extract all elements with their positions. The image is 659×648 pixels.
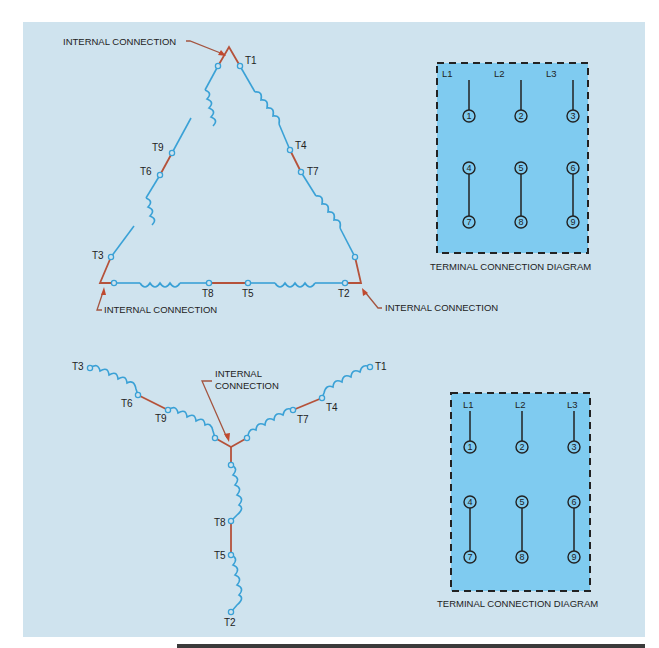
wye-node-t4: [319, 395, 324, 400]
delta-callout-bottom-right: INTERNAL CONNECTION: [385, 302, 498, 313]
wye-center-jumper: [215, 438, 247, 447]
arrowhead-icon: [101, 287, 106, 295]
top-line-l1: L1: [442, 68, 453, 79]
wye-node-t2: [228, 609, 233, 614]
delta-node-t4: [287, 147, 292, 152]
delta-label-t1: T1: [245, 55, 257, 66]
motor-connection-diagrams: T1 T9 T6 T3 T4 T7 T8 T5 T2 INTERNAL CONN…: [0, 0, 659, 648]
wye-node-t5: [228, 552, 233, 557]
bottom-line-l1: L1: [463, 399, 474, 410]
delta-callout-top-arrow: [186, 41, 223, 54]
wye-node-center-bottom: [228, 462, 233, 467]
delta-node-t3: [108, 254, 113, 259]
wye-node-left-inner: [212, 435, 217, 440]
bottom-terminal-1-num: 1: [467, 442, 472, 452]
delta-node-t9: [169, 150, 174, 155]
wye-callout-line1: INTERNAL: [215, 368, 262, 379]
wye-label-t8: T8: [214, 517, 226, 528]
delta-label-t4: T4: [295, 140, 307, 151]
bottom-terminal-7-num: 7: [467, 552, 472, 562]
delta-label-t9: T9: [152, 142, 164, 153]
wye-t4-t7-link: [293, 398, 322, 410]
arrowhead-icon: [224, 433, 230, 442]
delta-callout-bottom-left: INTERNAL CONNECTION: [104, 304, 217, 315]
wye-node-t7: [290, 407, 295, 412]
delta-node-t2: [342, 280, 347, 285]
wye-node-t3: [87, 365, 92, 370]
top-terminal-1-num: 1: [466, 111, 471, 121]
bottom-terminal-8-num: 8: [519, 552, 524, 562]
wye-node-t6: [135, 392, 140, 397]
wye-node-right-inner: [244, 435, 249, 440]
delta-coil-bottom-left: [114, 283, 209, 287]
bottom-terminal-9-num: 9: [571, 552, 576, 562]
bottom-terminal-5-num: 5: [519, 497, 524, 507]
delta-node-t8: [206, 280, 211, 285]
delta-node-t7: [298, 169, 303, 174]
delta-node-t1: [237, 63, 242, 68]
delta-node-t5: [245, 280, 250, 285]
terminal-diagram-top: L1 L2 L3 1 2 3 4 5 6 7 8 9 TERMINAL CONN…: [430, 63, 591, 272]
delta-coil-left-lower: [111, 175, 160, 257]
top-terminal-6-num: 6: [570, 163, 575, 173]
bottom-terminal-4-num: 4: [467, 497, 472, 507]
wye-coil-left-inner: [168, 408, 215, 438]
top-terminal-7-num: 7: [466, 217, 471, 227]
top-line-l2: L2: [494, 68, 505, 79]
wye-label-t1: T1: [375, 361, 387, 372]
delta-callout-bottom-right-arrow: [365, 292, 382, 308]
delta-label-t3: T3: [92, 250, 104, 261]
top-terminal-2-num: 2: [518, 111, 523, 121]
bottom-terminal-3-num: 3: [571, 442, 576, 452]
delta-t4-t7-link: [290, 150, 301, 172]
wye-callout-line2: CONNECTION: [215, 380, 279, 391]
bottom-terminal-2-num: 2: [519, 442, 524, 452]
top-terminal-caption: TERMINAL CONNECTION DIAGRAM: [430, 261, 591, 272]
wye-coil-left-outer: [90, 366, 138, 395]
delta-node-right-lower: [352, 254, 357, 259]
wye-coil-right-outer: [322, 366, 370, 398]
bottom-line-l3: L3: [567, 399, 578, 410]
wye-node-t8: [228, 518, 233, 523]
wye-label-t4: T4: [326, 402, 338, 413]
delta-coil-right-upper: [240, 66, 290, 150]
top-terminal-8-num: 8: [518, 217, 523, 227]
delta-coil-left-upper: [172, 66, 218, 153]
delta-diagram: T1 T9 T6 T3 T4 T7 T8 T5 T2 INTERNAL CONN…: [63, 36, 498, 315]
delta-label-t7: T7: [307, 166, 319, 177]
top-terminal-9-num: 9: [570, 217, 575, 227]
top-terminal-3-num: 3: [570, 111, 575, 121]
bottom-terminal-6-num: 6: [571, 497, 576, 507]
wye-diagram: T3 T6 T9 T1 T4 T7 T8 T5 T2 INTERNAL CONN…: [72, 361, 387, 628]
wye-label-t9: T9: [155, 413, 167, 424]
top-line-l3: L3: [546, 68, 557, 79]
delta-t9-t6-link: [160, 153, 172, 175]
delta-coil-bottom-right: [248, 283, 345, 287]
wye-t6-t9-link: [138, 395, 168, 410]
wye-coil-vertical-upper: [231, 465, 242, 521]
wye-coil-vertical-lower: [231, 555, 242, 612]
delta-node-t6: [157, 172, 162, 177]
delta-node-top-left: [215, 63, 220, 68]
delta-callout-top: INTERNAL CONNECTION: [63, 36, 176, 47]
top-terminal-4-num: 4: [466, 163, 471, 173]
wye-node-t9: [165, 407, 170, 412]
delta-label-t2: T2: [338, 288, 350, 299]
delta-label-t8: T8: [202, 288, 214, 299]
wye-label-t2: T2: [224, 617, 236, 628]
top-terminal-5-num: 5: [518, 163, 523, 173]
terminal-diagram-bottom: L1 L2 L3 1 2 3 4 5 6 7 8 9 TERMINAL CONN…: [437, 393, 598, 609]
wye-coil-right-inner: [247, 409, 293, 438]
wye-label-t3: T3: [72, 361, 84, 372]
wye-label-t6: T6: [121, 398, 133, 409]
terminal-box-top: [437, 63, 588, 253]
wye-label-t7: T7: [297, 414, 309, 425]
bottom-terminal-caption: TERMINAL CONNECTION DIAGRAM: [437, 598, 598, 609]
delta-label-t6: T6: [140, 166, 152, 177]
delta-bottom-right-internal-jumper: [345, 257, 361, 283]
delta-top-internal-jumper: [218, 47, 240, 66]
wye-label-t5: T5: [214, 550, 226, 561]
delta-label-t5: T5: [242, 288, 254, 299]
bottom-line-l2: L2: [515, 399, 526, 410]
delta-coil-right-lower: [301, 172, 355, 257]
